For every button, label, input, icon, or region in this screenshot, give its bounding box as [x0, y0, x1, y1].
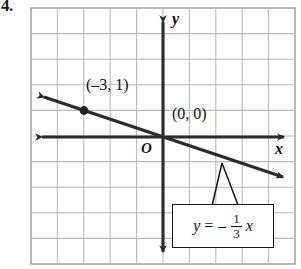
- origin-label-O: O: [141, 140, 152, 157]
- fraction-numerator: 1: [231, 212, 242, 225]
- equation-equals: =: [204, 218, 213, 234]
- x-axis-label: x: [275, 140, 283, 158]
- equation-callout-box: y = – 1 3 x: [172, 204, 274, 248]
- point-label-neg3-1: (–3, 1): [86, 76, 129, 94]
- y-axis-label: y: [172, 10, 179, 28]
- fraction-denominator: 3: [231, 226, 242, 240]
- equation-minus: –: [218, 218, 226, 234]
- point-marker-neg3-1: [80, 106, 89, 115]
- equation-fraction: 1 3: [231, 212, 242, 240]
- equation-variable: x: [246, 218, 253, 234]
- equation-text: y = – 1 3 x: [193, 212, 253, 240]
- point-label-origin: (0, 0): [172, 105, 207, 123]
- equation-lhs: y: [193, 218, 200, 234]
- graph-figure: 4.: [0, 0, 301, 269]
